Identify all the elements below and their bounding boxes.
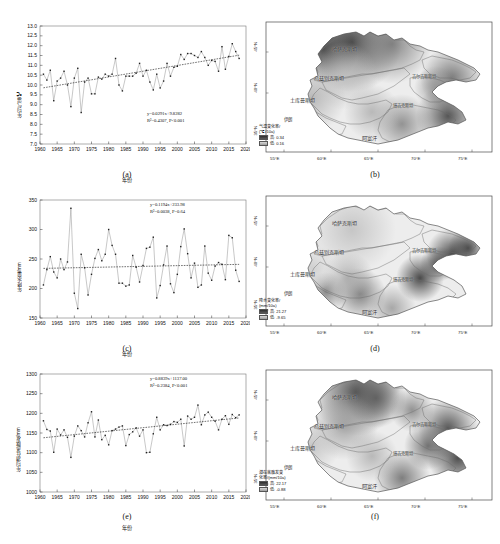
- map-b-legend-high-label: 高:: [270, 135, 275, 140]
- svg-text:1300: 1300: [26, 371, 37, 377]
- map-b-legend-title-2: (℃/10a): [259, 129, 284, 134]
- svg-text:1965: 1965: [52, 494, 63, 500]
- map-f-legend-high-label: 高:: [270, 481, 275, 486]
- svg-text:1960: 1960: [34, 146, 45, 152]
- map-d-ytick-45n: 45°N: [253, 216, 258, 226]
- map-d-legend-high-value: 21.27: [276, 309, 286, 314]
- svg-text:2010: 2010: [206, 494, 217, 500]
- map-d-legend-high-swatch: [259, 309, 268, 314]
- svg-text:1985: 1985: [120, 146, 131, 152]
- map-d-country-tajikistan: 塔吉克斯坦: [393, 276, 413, 282]
- svg-text:12.0: 12.0: [27, 42, 37, 48]
- map-f-country-afghanistan: 阿富汗: [362, 482, 377, 489]
- map-b-legend-low-swatch: [259, 141, 268, 146]
- svg-text:1995: 1995: [155, 320, 166, 326]
- map-f-legend-high-row: 高: 22.17: [259, 481, 286, 486]
- map-f-legend: 潜在蒸散发变 化率/(mm/10a) 高: 22.17 低: -0.88: [259, 470, 286, 492]
- panel-a-chart: 7.07.58.08.59.09.510.010.511.011.512.012…: [4, 16, 250, 166]
- map-d-xtick-65e: 65°E: [364, 330, 373, 335]
- map-b-country-iran: 伊朗: [284, 116, 292, 122]
- map-b-xtick-65e: 65°E: [364, 156, 373, 161]
- svg-text:11.0: 11.0: [28, 62, 38, 68]
- svg-text:11.5: 11.5: [28, 52, 38, 58]
- map-b-ytick-45n: 45°N: [253, 42, 258, 52]
- map-d-legend-title-2: (mm/10a): [259, 303, 286, 308]
- svg-text:1995: 1995: [155, 146, 166, 152]
- svg-text:13.0: 13.0: [27, 23, 37, 29]
- panel-f: 哈萨克斯坦 乌兹别克斯坦 土库曼斯坦 吉尔吉斯斯坦 塔吉克斯坦 阿富汗 伊朗 潜…: [252, 364, 498, 519]
- svg-text:350: 350: [29, 197, 38, 203]
- map-f-legend-high-swatch: [259, 481, 268, 486]
- map-b-legend: 气温变化率/ (℃/10a) 高: 0.34 低: 0.16: [259, 124, 284, 146]
- svg-text:1960: 1960: [34, 320, 45, 326]
- map-d-country-iran: 伊朗: [284, 290, 292, 296]
- svg-text:200: 200: [29, 285, 38, 291]
- map-f-xtick-70e: 70°E: [411, 504, 420, 509]
- map-f-legend-low-row: 低: -0.88: [259, 487, 286, 492]
- figure-container: 年均气温/℃ 7.07.58.08.59.09.510.010.511.011.…: [0, 0, 500, 544]
- panel-a-label: (a): [4, 170, 250, 179]
- map-f-legend-low-swatch: [259, 487, 268, 492]
- map-b-country-afghanistan: 阿富汗: [362, 134, 377, 141]
- svg-text:1965: 1965: [52, 146, 63, 152]
- panel-e-eq-line1: y=0.8839x+1137.00: [150, 376, 187, 381]
- panel-e-label: (e): [4, 512, 250, 521]
- panel-d: 哈萨克斯坦 乌兹别克斯坦 土库曼斯坦 吉尔吉斯斯坦 塔吉克斯坦 阿富汗 伊朗 降…: [252, 190, 498, 345]
- map-d-ytick-40n: 40°N: [253, 257, 258, 267]
- svg-text:2005: 2005: [189, 494, 200, 500]
- svg-text:2015: 2015: [223, 494, 234, 500]
- map-b-xtick-55e: 55°E: [270, 156, 279, 161]
- panel-c-eq-line2: R²=0.0038, P=0.64: [150, 209, 185, 214]
- panel-f-label: (f): [252, 512, 498, 521]
- map-f-ytick-45n: 45°N: [253, 390, 258, 400]
- svg-text:2000: 2000: [172, 320, 183, 326]
- svg-text:1960: 1960: [34, 494, 45, 500]
- svg-text:1980: 1980: [103, 146, 114, 152]
- map-f-legend-low-value: -0.88: [276, 487, 285, 492]
- svg-text:8.5: 8.5: [30, 111, 37, 117]
- svg-text:1985: 1985: [120, 320, 131, 326]
- map-f-legend-low-label: 低:: [270, 487, 275, 492]
- panel-d-label: (d): [252, 344, 498, 353]
- map-b-xtick-60e: 60°E: [317, 156, 326, 161]
- svg-text:2005: 2005: [189, 146, 200, 152]
- svg-text:7.5: 7.5: [30, 131, 37, 137]
- svg-text:300: 300: [29, 226, 38, 232]
- map-b-country-kazakhstan: 哈萨克斯坦: [332, 45, 357, 52]
- svg-text:2015: 2015: [223, 320, 234, 326]
- map-b-country-turkmenistan: 土库曼斯坦: [290, 96, 315, 103]
- map-f-legend-high-value: 22.17: [276, 481, 286, 486]
- panel-a-eq-line1: y=0.0291x+9.8282: [147, 111, 182, 116]
- map-b-legend-low-label: 低:: [270, 141, 275, 146]
- map-b-legend-high-row: 高: 0.34: [259, 135, 284, 140]
- map-b-xtick-75e: 75°E: [458, 156, 467, 161]
- map-d-legend-low-row: 低: -9.65: [259, 315, 286, 320]
- svg-text:250: 250: [29, 256, 38, 262]
- svg-text:2010: 2010: [206, 320, 217, 326]
- map-b-legend-high-swatch: [259, 135, 268, 140]
- svg-text:12.5: 12.5: [27, 32, 37, 38]
- map-d-country-uzbekistan: 乌兹别克斯坦: [314, 248, 344, 255]
- svg-text:1250: 1250: [26, 390, 37, 396]
- svg-text:1980: 1980: [103, 320, 114, 326]
- svg-text:9.5: 9.5: [30, 91, 37, 97]
- map-b-country-uzbekistan: 乌兹别克斯坦: [314, 74, 344, 81]
- map-b-ytick-40n: 40°N: [253, 83, 258, 93]
- map-d-legend-low-label: 低:: [270, 315, 275, 320]
- svg-text:1150: 1150: [26, 430, 37, 436]
- svg-text:2020: 2020: [240, 146, 250, 152]
- map-f-ytick-35n: 35°N: [253, 474, 258, 484]
- svg-text:1975: 1975: [86, 146, 97, 152]
- map-d-country-kazakhstan: 哈萨克斯坦: [332, 219, 357, 226]
- map-d-legend-high-label: 高:: [270, 309, 275, 314]
- panel-c-chart: 1502002503003501960196519701975198019851…: [4, 190, 250, 340]
- svg-text:2020: 2020: [240, 320, 250, 326]
- map-d-legend-low-value: -9.65: [276, 315, 285, 320]
- map-d-ytick-35n: 35°N: [253, 300, 258, 310]
- map-d-xtick-70e: 70°E: [411, 330, 420, 335]
- svg-text:1100: 1100: [26, 449, 37, 455]
- map-f-country-uzbekistan: 乌兹别克斯坦: [314, 422, 344, 429]
- map-b-legend-low-value: 0.16: [276, 141, 284, 146]
- map-d-legend-high-row: 高: 21.27: [259, 309, 286, 314]
- panel-c: 年降水量/mm 15020025030035019601965197019751…: [4, 190, 250, 345]
